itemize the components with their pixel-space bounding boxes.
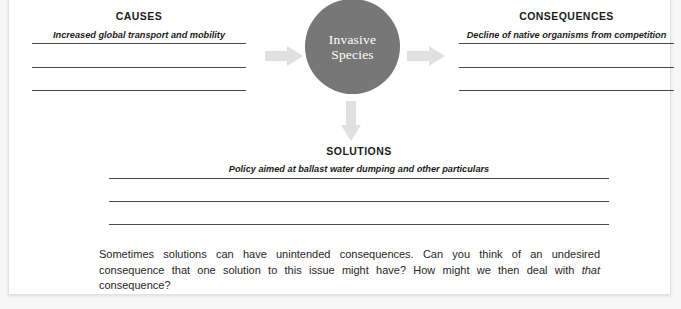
central-topic-label: Invasive Species: [329, 32, 376, 62]
central-topic-label-line2: Species: [331, 47, 374, 62]
consequences-heading: CONSEQUENCES: [459, 10, 674, 22]
central-topic-circle: Invasive Species: [305, 0, 400, 94]
reflection-prompt-part2: consequence?: [99, 279, 171, 291]
solutions-rule-2[interactable]: [109, 201, 609, 202]
arrow-head: [429, 46, 445, 66]
arrow-head: [341, 125, 361, 141]
arrow-right-icon-causes-to-node: [265, 46, 303, 66]
reflection-prompt-part1: Sometimes solutions can have unintended …: [99, 248, 600, 276]
reflection-prompt-emphasis: that: [582, 264, 600, 276]
arrow-down-icon-node-to-solutions: [341, 101, 361, 141]
reflection-prompt: Sometimes solutions can have unintended …: [99, 247, 600, 294]
causes-answer-line-1[interactable]: Increased global transport and mobility: [32, 30, 246, 40]
causes-rule-3[interactable]: [32, 90, 246, 91]
causes-heading: CAUSES: [32, 10, 246, 22]
solutions-answer-line-1[interactable]: Policy aimed at ballast water dumping an…: [109, 164, 609, 174]
consequences-rule-3[interactable]: [459, 90, 674, 91]
causes-rule-2[interactable]: [32, 67, 246, 68]
arrow-head: [287, 46, 303, 66]
solutions-rule-1[interactable]: [109, 178, 609, 179]
causes-rule-1[interactable]: [32, 43, 246, 44]
arrow-shaft: [265, 51, 289, 61]
arrow-right-icon-node-to-consequences: [407, 46, 445, 66]
solutions-rule-3[interactable]: [109, 224, 609, 225]
consequences-rule-2[interactable]: [459, 67, 674, 68]
consequences-rule-1[interactable]: [459, 43, 674, 44]
arrow-shaft: [407, 51, 431, 61]
worksheet-page: CAUSES Increased global transport and mo…: [8, 0, 671, 295]
central-topic-label-line1: Invasive: [329, 32, 376, 47]
page-background: CAUSES Increased global transport and mo…: [0, 0, 681, 309]
arrow-shaft: [346, 101, 356, 127]
consequences-answer-line-1[interactable]: Decline of native organisms from competi…: [459, 30, 674, 40]
solutions-heading: SOLUTIONS: [109, 145, 609, 157]
